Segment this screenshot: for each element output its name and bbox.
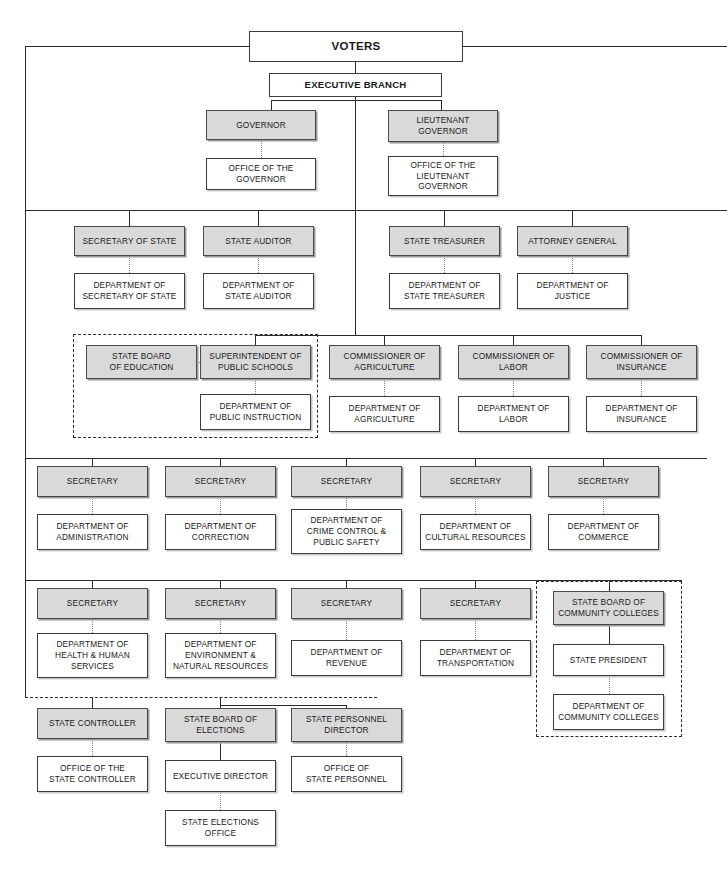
commissioner-agriculture-drop: [384, 335, 385, 345]
labor-dept-dotted: [513, 379, 514, 396]
node-state-board-of-education[interactable]: STATE BOARD OF EDUCATION: [86, 345, 197, 379]
community-colleges-drop: [609, 580, 610, 591]
state-auditor-drop: [258, 210, 259, 226]
commissioners-bus: [255, 335, 641, 336]
node-dept-justice[interactable]: DEPARTMENT OF JUSTICE: [517, 273, 628, 309]
node-state-elections-office[interactable]: STATE ELECTIONS OFFICE: [165, 810, 276, 846]
elections-office-dotted: [220, 792, 221, 810]
node-dept-state-auditor[interactable]: DEPARTMENT OF STATE AUDITOR: [203, 273, 314, 309]
node-commissioner-of-labor[interactable]: COMMISSIONER OF LABOR: [458, 345, 569, 379]
community-colleges-president-connector: [609, 625, 610, 644]
node-state-controller[interactable]: STATE CONTROLLER: [37, 708, 148, 739]
node-dept-secretary-of-state[interactable]: DEPARTMENT OF SECRETARY OF STATE: [74, 273, 185, 309]
node-dept-revenue[interactable]: DEPARTMENT OF REVENUE: [291, 640, 402, 676]
node-secretary-revenue[interactable]: SECRETARY: [291, 588, 402, 619]
node-state-board-of-elections[interactable]: STATE BOARD OF ELECTIONS: [165, 708, 276, 742]
node-superintendent-of-public-schools[interactable]: SUPERINTENDENT OF PUBLIC SCHOOLS: [200, 345, 311, 379]
cultural-resources-dept-dotted: [475, 497, 476, 514]
node-secretary-health-human-services[interactable]: SECRETARY: [37, 588, 148, 619]
node-office-of-the-governor[interactable]: OFFICE OF THE GOVERNOR: [206, 158, 316, 190]
node-dept-labor[interactable]: DEPARTMENT OF LABOR: [458, 396, 569, 432]
node-state-treasurer[interactable]: STATE TREASURER: [389, 226, 500, 256]
node-commissioner-of-agriculture[interactable]: COMMISSIONER OF AGRICULTURE: [329, 345, 440, 379]
revenue-dept-dotted: [346, 619, 347, 640]
node-dept-public-instruction[interactable]: DEPARTMENT OF PUBLIC INSTRUCTION: [200, 394, 311, 430]
node-executive-branch[interactable]: EXECUTIVE BRANCH: [269, 73, 442, 97]
node-secretary-crime-control[interactable]: SECRETARY: [291, 466, 402, 497]
node-dept-crime-control[interactable]: DEPARTMENT OF CRIME CONTROL & PUBLIC SAF…: [291, 509, 402, 554]
personnel-director-bus: [220, 705, 346, 706]
state-treasurer-dept-dotted: [444, 256, 445, 273]
node-state-president[interactable]: STATE PRESIDENT: [553, 644, 664, 676]
governor-drop: [271, 100, 272, 110]
secretary-row2-bus: [25, 580, 682, 581]
secretary-admin-drop: [92, 458, 93, 466]
org-chart-canvas: VOTERS EXECUTIVE BRANCH GOVERNOR OFFICE …: [0, 0, 727, 875]
node-lieutenant-governor[interactable]: LIEUTENANT GOVERNOR: [388, 110, 498, 142]
node-office-of-the-lieutenant-governor[interactable]: OFFICE OF THE LIEUTENANT GOVERNOR: [388, 156, 498, 196]
state-personnel-office-dotted: [346, 742, 347, 756]
node-dept-state-treasurer[interactable]: DEPARTMENT OF STATE TREASURER: [389, 273, 500, 309]
node-state-board-of-community-colleges[interactable]: STATE BOARD OF COMMUNITY COLLEGES: [553, 591, 664, 625]
node-dept-correction[interactable]: DEPARTMENT OF CORRECTION: [165, 514, 276, 550]
node-dept-administration[interactable]: DEPARTMENT OF ADMINISTRATION: [37, 514, 148, 550]
elections-executive-director-connector: [220, 742, 221, 760]
node-dept-environment[interactable]: DEPARTMENT OF ENVIRONMENT & NATURAL RESO…: [165, 633, 276, 678]
correction-dept-dotted: [220, 497, 221, 514]
node-state-auditor[interactable]: STATE AUDITOR: [203, 226, 314, 256]
node-secretary-commerce[interactable]: SECRETARY: [548, 466, 659, 497]
secretary-commerce-drop: [603, 458, 604, 466]
node-attorney-general[interactable]: ATTORNEY GENERAL: [517, 226, 628, 256]
insurance-dept-dotted: [641, 379, 642, 396]
node-state-personnel-director[interactable]: STATE PERSONNEL DIRECTOR: [291, 708, 402, 742]
node-dept-health-human-services[interactable]: DEPARTMENT OF HEALTH & HUMAN SERVICES: [37, 633, 148, 678]
bottom-dashed-bus: [25, 697, 377, 698]
state-controller-office-dotted: [92, 739, 93, 756]
voters-to-exec-connector: [355, 62, 356, 73]
node-dept-cultural-resources[interactable]: DEPARTMENT OF CULTURAL RESOURCES: [420, 514, 531, 550]
node-secretary-correction[interactable]: SECRETARY: [165, 466, 276, 497]
node-dept-agriculture[interactable]: DEPARTMENT OF AGRICULTURE: [329, 396, 440, 432]
node-executive-director[interactable]: EXECUTIVE DIRECTOR: [165, 760, 276, 792]
attorney-general-drop: [572, 210, 573, 226]
node-dept-community-colleges[interactable]: DEPARTMENT OF COMMUNITY COLLEGES: [553, 694, 664, 730]
superintendent-drop: [255, 335, 256, 345]
environment-dept-dotted: [220, 619, 221, 633]
agriculture-dept-dotted: [384, 379, 385, 396]
node-secretary-administration[interactable]: SECRETARY: [37, 466, 148, 497]
secretary-health-drop: [92, 580, 93, 588]
secretary-of-state-drop: [129, 210, 130, 226]
secretary-revenue-drop: [346, 580, 347, 588]
node-office-of-the-state-controller[interactable]: OFFICE OF THE STATE CONTROLLER: [37, 756, 148, 792]
secretary-environment-drop: [220, 580, 221, 588]
node-dept-commerce[interactable]: DEPARTMENT OF COMMERCE: [548, 514, 659, 550]
node-secretary-transportation[interactable]: SECRETARY: [420, 588, 531, 619]
node-secretary-cultural-resources[interactable]: SECRETARY: [420, 466, 531, 497]
lt-governor-office-dotted: [443, 142, 444, 156]
commissioner-labor-drop: [513, 335, 514, 345]
transportation-dept-dotted: [475, 619, 476, 640]
secretary-crime-drop: [346, 458, 347, 466]
attorney-general-dept-dotted: [572, 256, 573, 273]
node-secretary-environment[interactable]: SECRETARY: [165, 588, 276, 619]
central-spine: [355, 95, 356, 335]
state-controller-drop: [92, 697, 93, 708]
crime-control-dept-dotted: [346, 497, 347, 509]
administration-dept-dotted: [92, 497, 93, 514]
secretary-of-state-dept-dotted: [129, 256, 130, 273]
secretary-correction-drop: [220, 458, 221, 466]
node-voters[interactable]: VOTERS: [249, 31, 463, 62]
superintendent-dept-dotted: [255, 379, 256, 394]
state-treasurer-drop: [444, 210, 445, 226]
node-office-of-state-personnel[interactable]: OFFICE OF STATE PERSONNEL: [291, 756, 402, 792]
voters-top-bus: [25, 46, 250, 47]
node-dept-transportation[interactable]: DEPARTMENT OF TRANSPORTATION: [420, 640, 531, 676]
governor-office-dotted: [261, 140, 262, 158]
node-commissioner-of-insurance[interactable]: COMMISSIONER OF INSURANCE: [586, 345, 697, 379]
voters-top-bus-right: [463, 46, 727, 47]
node-dept-insurance[interactable]: DEPARTMENT OF INSURANCE: [586, 396, 697, 432]
node-governor[interactable]: GOVERNOR: [206, 110, 316, 140]
node-secretary-of-state[interactable]: SECRETARY OF STATE: [74, 226, 185, 256]
secretary-transportation-drop: [475, 580, 476, 588]
community-colleges-dept-dotted: [609, 676, 610, 694]
